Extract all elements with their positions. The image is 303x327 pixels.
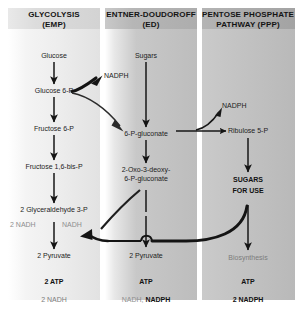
yield-nadh-glycolysis: 2 NADH xyxy=(41,296,67,305)
g6p-to-6pgluconate-arrow xyxy=(72,93,124,132)
metabolite-2-oxo-3-deoxy-line2: 6-P-gluconate xyxy=(124,175,168,184)
yield-nadph-ppp: 2 NADPH xyxy=(233,296,264,305)
header-ppp-line1: PENTOSE PHOSPHATE xyxy=(200,10,296,20)
pathway-figure: GLYCOLYSIS (EMP) ENTNER-DOUDOROFF (ED) P… xyxy=(0,0,303,327)
header-ppp-line2: PATHWAY (PPP) xyxy=(200,20,296,30)
metabolite-fructose-1-6-bis-p: Fructose 1,6-bis-P xyxy=(25,163,82,172)
metabolite-fructose-6-p: Fructose 6-P xyxy=(34,125,74,134)
header-ed-line1: ENTNER-DOUDOROFF xyxy=(104,10,198,20)
cofactor-nadph-left: NADPH xyxy=(104,72,129,81)
metabolite-2-oxo-3-deoxy-line1: 2-Oxo-3-deoxy- xyxy=(122,166,171,175)
header-ed-line2: (ED) xyxy=(104,20,198,30)
column-header-glycolysis: GLYCOLYSIS (EMP) xyxy=(10,10,98,29)
metabolite-sugars-for-use-line2: FOR USE xyxy=(232,187,263,196)
yield-atp-ppp: ATP xyxy=(241,278,254,287)
g6p-to-nadph-arrow xyxy=(72,76,103,92)
yield-nadph-ed: NADPH xyxy=(145,296,170,303)
metabolite-glucose: Glucose xyxy=(41,52,67,61)
metabolite-biosynthesis: Biosynthesis xyxy=(228,254,267,263)
metabolite-glucose-6-p: Glucose 6-P xyxy=(35,87,74,96)
ribulose-branch-to-nadph-arrow xyxy=(196,108,222,131)
cofactor-2-nadh-left: 2 NADH xyxy=(10,221,36,230)
header-glycolysis-line2: (EMP) xyxy=(10,20,98,30)
column-header-entner-doudoroff: ENTNER-DOUDOROFF (ED) xyxy=(104,10,198,29)
metabolite-pyruvate-glycolysis: 2 Pyruvate xyxy=(37,252,70,261)
yield-atp-ed: ATP xyxy=(139,278,152,287)
yield-atp-glycolysis: 2 ATP xyxy=(44,278,63,287)
metabolite-pyruvate-ed: 2 Pyruvate xyxy=(129,252,162,261)
metabolite-6-p-gluconate: 6-P-gluconate xyxy=(124,130,168,139)
yield-redox-ed: NADH, NADPH xyxy=(101,296,191,305)
cofactor-nadh-right: NADH xyxy=(62,221,82,230)
metabolite-ribulose-5-p: Ribulose 5-P xyxy=(228,127,268,136)
2oxo-left-curved-arrow xyxy=(101,190,140,229)
metabolite-sugars-ed: Sugars xyxy=(135,52,157,61)
header-glycolysis-line1: GLYCOLYSIS xyxy=(10,10,98,20)
yield-nadh-ed: NADH, xyxy=(122,296,144,303)
cofactor-nadph-right: NADPH xyxy=(222,102,247,111)
metabolite-glyceraldehyde-3-p: 2 Glyceraldehyde 3-P xyxy=(20,206,87,215)
metabolite-sugars-for-use-line1: SUGARS xyxy=(233,176,263,185)
column-header-pentose-phosphate: PENTOSE PHOSPHATE PATHWAY (PPP) xyxy=(200,10,296,29)
